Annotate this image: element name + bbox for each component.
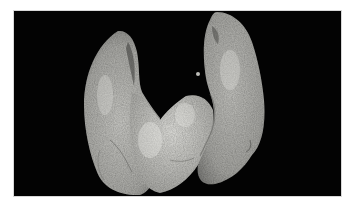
nodule xyxy=(196,72,200,76)
right-lobe xyxy=(198,12,265,184)
thyroid-specimen xyxy=(14,11,341,196)
specimen-photograph xyxy=(14,11,341,196)
